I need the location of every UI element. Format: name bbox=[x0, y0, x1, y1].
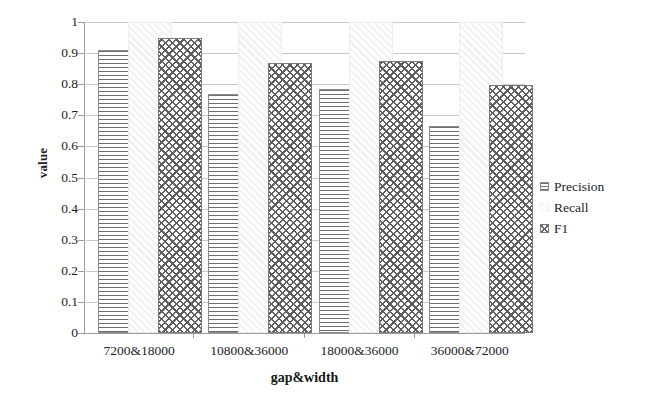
x-tick-mark bbox=[414, 333, 415, 338]
y-tick-label: 0 bbox=[34, 326, 78, 340]
y-tick-label: 0.6 bbox=[34, 140, 78, 154]
y-tick-mark bbox=[78, 302, 84, 303]
y-tick-label: 0.8 bbox=[34, 77, 78, 91]
y-tick-label: 0.4 bbox=[34, 202, 78, 216]
y-tick-mark bbox=[78, 84, 84, 85]
bar-group bbox=[415, 22, 525, 333]
chart-legend: PrecisionRecallF1 bbox=[540, 176, 650, 239]
y-tick-mark bbox=[78, 271, 84, 272]
crosshatch-swatch bbox=[540, 224, 549, 233]
y-tick-label: 0.5 bbox=[34, 171, 78, 185]
y-tick-label: 0.3 bbox=[34, 233, 78, 247]
bar-groups bbox=[84, 22, 525, 333]
y-tick-label: 0.1 bbox=[34, 295, 78, 309]
horizontal-hatch-swatch bbox=[540, 182, 549, 191]
x-axis-line bbox=[84, 333, 525, 334]
legend-item[interactable]: F1 bbox=[540, 218, 650, 239]
legend-label: F1 bbox=[554, 222, 568, 236]
y-tick-label: 0.2 bbox=[34, 264, 78, 278]
y-tick-mark bbox=[78, 209, 84, 210]
y-tick-label: 0.9 bbox=[34, 46, 78, 60]
x-tick-mark bbox=[304, 333, 305, 338]
y-tick-mark bbox=[78, 53, 84, 54]
y-tick-mark bbox=[78, 240, 84, 241]
x-tick-label: 7200&18000 bbox=[84, 344, 194, 358]
y-tick-mark bbox=[78, 178, 84, 179]
x-tick-mark bbox=[193, 333, 194, 338]
bar-group bbox=[305, 22, 415, 333]
x-tick-label: 36000&72000 bbox=[415, 344, 525, 358]
legend-label: Recall bbox=[554, 201, 588, 215]
bar-group bbox=[84, 22, 194, 333]
blank-swatch bbox=[540, 203, 549, 212]
x-axis-tick-labels: 7200&1800010800&3600018000&3600036000&72… bbox=[84, 344, 525, 364]
y-tick-mark bbox=[78, 333, 84, 334]
y-tick-mark bbox=[78, 146, 84, 147]
y-tick-mark bbox=[78, 115, 84, 116]
y-tick-label: 1 bbox=[34, 15, 78, 29]
y-tick-label: 0.7 bbox=[34, 109, 78, 123]
x-tick-label: 18000&36000 bbox=[305, 344, 415, 358]
y-axis-tick-labels: 00.10.20.30.40.50.60.70.80.91 bbox=[34, 22, 78, 333]
x-axis-title: gap&width bbox=[84, 370, 525, 386]
bar-group bbox=[194, 22, 304, 333]
x-tick-label: 10800&36000 bbox=[194, 344, 304, 358]
legend-item[interactable]: Precision bbox=[540, 176, 650, 197]
bar-f1 bbox=[489, 85, 533, 333]
legend-item[interactable]: Recall bbox=[540, 197, 650, 218]
y-tick-mark bbox=[78, 22, 84, 23]
legend-label: Precision bbox=[554, 180, 604, 194]
plot-area bbox=[84, 22, 525, 333]
bar-chart-figure: value 00.10.20.30.40.50.60.70.80.91 7200… bbox=[0, 0, 660, 403]
